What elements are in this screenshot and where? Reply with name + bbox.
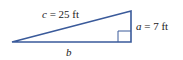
triangle-diagram: c = 25 ft a = 7 ft b (0, 0, 183, 60)
hypotenuse-label: c = 25 ft (42, 8, 79, 20)
leg-b-label: b (66, 46, 72, 58)
right-angle-marker (118, 31, 131, 42)
leg-a-label: a = 7 ft (136, 20, 168, 32)
